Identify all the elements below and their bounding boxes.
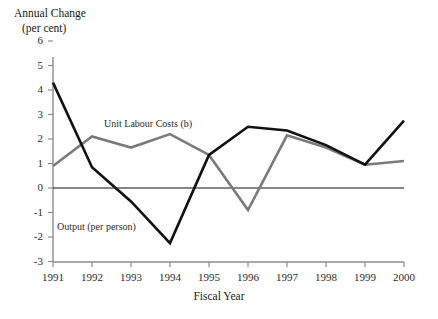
x-tick-label: 1991	[31, 271, 75, 283]
y-tick-label: 0	[21, 181, 43, 193]
x-axis-title: Fiscal Year	[0, 290, 438, 302]
y-tick-label: -1	[21, 206, 43, 218]
x-tick-label: 1993	[109, 271, 153, 283]
x-tick-label: 1999	[343, 271, 387, 283]
series-label-unit-labour-costs: Unit Labour Costs (b)	[104, 118, 192, 129]
series-line-output-per-person	[53, 83, 404, 243]
y-tick-label: -2	[21, 230, 43, 242]
y-tick-label: 5	[21, 59, 43, 71]
y-tick-label: -3	[21, 255, 43, 267]
x-tick-label: 2000	[382, 271, 426, 283]
y-tick-marks	[48, 41, 53, 262]
y-tick-label: 1	[21, 157, 43, 169]
y-tick-label: 2	[21, 132, 43, 144]
x-tick-marks	[53, 262, 404, 267]
y-tick-label: 4	[21, 83, 43, 95]
series-line-unit-labour-costs-b	[53, 134, 404, 210]
y-tick-label: 3	[21, 108, 43, 120]
chart-container: Annual Change (per cent) 6543210-1-2-3 1…	[0, 0, 438, 319]
y-tick-label: 6	[21, 34, 43, 46]
x-tick-label: 1997	[265, 271, 309, 283]
series-label-output: Output (per person)	[57, 221, 136, 232]
x-tick-label: 1996	[226, 271, 270, 283]
series-group	[53, 83, 404, 243]
x-tick-label: 1998	[304, 271, 348, 283]
x-tick-label: 1992	[70, 271, 114, 283]
x-tick-label: 1995	[187, 271, 231, 283]
x-tick-label: 1994	[148, 271, 192, 283]
